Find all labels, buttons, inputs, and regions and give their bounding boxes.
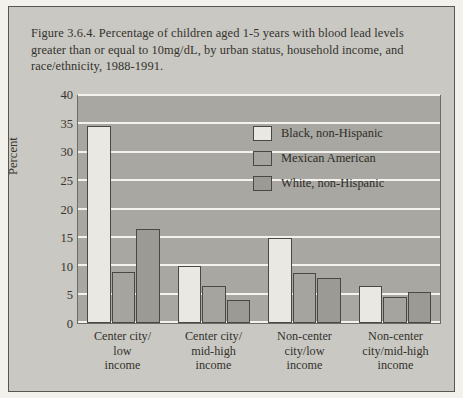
legend-item: White, non-Hispanic xyxy=(253,171,384,196)
x-axis-tick-label-line: income xyxy=(350,358,441,373)
bar xyxy=(227,300,251,323)
x-axis-tick-label-line: income xyxy=(168,358,259,373)
bar xyxy=(178,266,202,323)
bar xyxy=(87,126,111,323)
plot-area: Black, non-HispanicMexican AmericanWhite… xyxy=(77,95,441,324)
x-axis-tick-label: Non-centercity/mid-highincome xyxy=(350,329,441,385)
bar xyxy=(317,278,341,323)
y-axis-tick-label: 10 xyxy=(39,259,73,274)
x-axis-tick-label-line: income xyxy=(77,358,168,373)
x-axis-tick-label: Non-centercity/lowincome xyxy=(259,329,350,385)
bar xyxy=(268,238,292,323)
y-axis-tick-label: 35 xyxy=(39,116,73,131)
bar xyxy=(383,297,407,323)
x-axis-tick-label: Center city/lowincome xyxy=(77,329,168,385)
chart-legend: Black, non-HispanicMexican AmericanWhite… xyxy=(249,117,394,200)
legend-label: White, non-Hispanic xyxy=(281,176,384,191)
bar xyxy=(136,229,160,323)
bar xyxy=(112,272,136,323)
x-axis-tick-label-line: city/mid-high xyxy=(350,344,441,359)
legend-label: Mexican American xyxy=(281,151,376,166)
legend-item: Mexican American xyxy=(253,146,384,171)
y-axis-tick-labels: 0510152025303540 xyxy=(35,95,73,324)
x-axis-tick-label-line: city/low xyxy=(259,344,350,359)
bar-group xyxy=(169,96,260,323)
x-axis-tick-label-line: income xyxy=(259,358,350,373)
bar-group xyxy=(78,96,169,323)
y-axis-tick-label: 15 xyxy=(39,231,73,246)
y-axis-tick-label: 30 xyxy=(39,145,73,160)
y-axis-tick-label: 40 xyxy=(39,88,73,103)
x-axis-tick-label-line: Non-center xyxy=(350,329,441,344)
x-axis-tick-labels: Center city/lowincomeCenter city/mid-hig… xyxy=(77,329,441,385)
x-axis-tick-label: Center city/mid-highincome xyxy=(168,329,259,385)
legend-swatch xyxy=(253,151,272,166)
y-axis-tick-label: 25 xyxy=(39,173,73,188)
legend-swatch xyxy=(253,126,272,141)
x-axis-tick-label-line: mid-high xyxy=(168,344,259,359)
y-axis-tick-label: 20 xyxy=(39,202,73,217)
y-axis-title: Percent xyxy=(6,137,21,175)
bar xyxy=(293,273,317,323)
figure-container: Figure 3.6.4. Percentage of children age… xyxy=(8,6,455,392)
legend-item: Black, non-Hispanic xyxy=(253,121,384,146)
y-axis-tick-label: 0 xyxy=(39,317,73,332)
x-axis-tick-label-line: Center city/ xyxy=(168,329,259,344)
y-axis-tick-label: 5 xyxy=(39,288,73,303)
x-axis-tick-label-line: Center city/ xyxy=(77,329,168,344)
bar xyxy=(408,292,432,323)
figure-caption: Figure 3.6.4. Percentage of children age… xyxy=(31,25,436,75)
x-axis-tick-label-line: low xyxy=(77,344,168,359)
legend-swatch xyxy=(253,176,272,191)
bar xyxy=(202,286,226,323)
legend-label: Black, non-Hispanic xyxy=(281,126,383,141)
bar xyxy=(359,286,383,323)
x-axis-tick-label-line: Non-center xyxy=(259,329,350,344)
